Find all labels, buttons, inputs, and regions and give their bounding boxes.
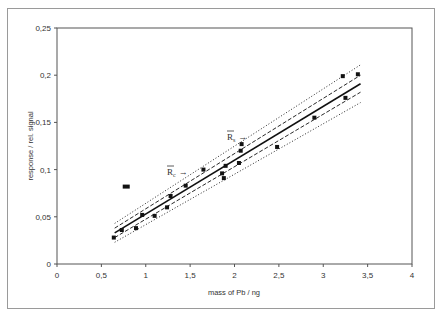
data-point-marker [220, 171, 224, 175]
x-tick-label: 2,5 [273, 271, 285, 280]
y-tick-label: 0,2 [40, 71, 52, 80]
x-tick-label: 0,5 [96, 271, 108, 280]
arrow-icon: → [238, 132, 247, 142]
x-tick-label: 3,5 [362, 271, 374, 280]
x-axis: 00,511,522,533,54 [55, 264, 415, 280]
data-point-marker [237, 161, 241, 165]
data-point-marker [240, 142, 244, 146]
x-tick-label: 4 [410, 271, 415, 280]
plot-area [57, 28, 412, 264]
data-point-marker [169, 194, 173, 198]
confidence-band-upper [115, 75, 361, 228]
x-tick-label: 3 [321, 271, 326, 280]
data-point-marker [153, 214, 157, 218]
x-tick-label: 1 [144, 271, 149, 280]
svg-text:Rs→: Rs→ [227, 132, 247, 143]
y-tick-label: 0 [47, 260, 52, 269]
x-axis-title: mass of Pb / ng [208, 288, 260, 297]
y-axis-title: response / rel. signal [26, 111, 35, 181]
prediction-band-upper [115, 65, 361, 224]
x-tick-label: 2 [232, 271, 237, 280]
data-point-marker [184, 184, 188, 188]
arrow-icon: → [179, 167, 188, 177]
svg-text:Rc→: Rc→ [167, 167, 188, 178]
data-point-marker [341, 74, 345, 78]
annotation-rc-sub: c [173, 172, 176, 178]
annotation-rc: Rc→ [167, 166, 188, 178]
calibration-scatter-chart: 00,050,10,150,20,25 00,511,522,533,54 re… [0, 0, 443, 318]
data-point-marker [239, 149, 243, 153]
annotation-rs: Rs→ [227, 131, 247, 143]
y-tick-label: 0,05 [35, 213, 51, 222]
data-point-marker [224, 164, 228, 168]
data-point-marker [356, 72, 360, 76]
data-point-marker [140, 213, 144, 217]
x-tick-label: 1,5 [185, 271, 197, 280]
data-point-marker [120, 228, 124, 232]
plot-border [57, 28, 412, 264]
data-points [112, 72, 360, 239]
data-point-marker [134, 226, 138, 230]
regression-line [115, 84, 361, 233]
data-point-marker [343, 96, 347, 100]
regression-bands [115, 65, 361, 242]
y-tick-label: 0,25 [35, 24, 51, 33]
annotation-rs-sub: s [233, 137, 236, 143]
x-tick-label: 0 [55, 271, 60, 280]
outlier-marker [123, 185, 130, 189]
y-tick-label: 0,1 [40, 166, 52, 175]
data-point-marker [201, 168, 205, 172]
y-tick-label: 0,15 [35, 118, 51, 127]
y-axis: 00,050,10,150,20,25 [35, 24, 57, 269]
data-point-marker [275, 145, 279, 149]
data-point-marker [112, 236, 116, 240]
prediction-band-lower [115, 103, 361, 243]
data-point-marker [312, 116, 316, 120]
data-point-marker [222, 176, 226, 180]
data-point-marker [165, 205, 169, 209]
